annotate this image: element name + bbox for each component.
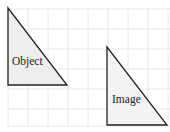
image-triangle xyxy=(107,47,167,125)
diagram-canvas: Object Image xyxy=(0,0,170,132)
image-label: Image xyxy=(112,93,141,106)
object-triangle xyxy=(8,8,67,85)
object-label: Object xyxy=(12,55,43,68)
